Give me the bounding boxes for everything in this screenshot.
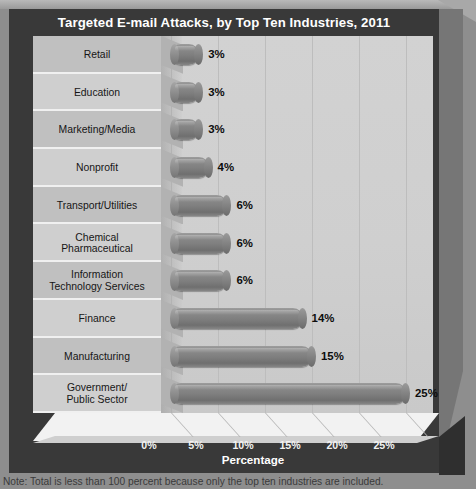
category-label-line2: Pharmaceutical xyxy=(61,243,133,254)
category-label-line1: Government/ xyxy=(67,382,127,393)
bar-value-label: 14% xyxy=(312,308,335,329)
bar-value-label: 15% xyxy=(321,346,344,367)
plot-area: RetailEducationMarketing/MediaNonprofitT… xyxy=(33,36,433,413)
bar xyxy=(171,270,227,291)
bar-highlight xyxy=(175,159,205,164)
bar xyxy=(171,346,312,367)
bar-highlight xyxy=(175,235,223,240)
bar-value-label: 3% xyxy=(208,44,224,65)
bar-highlight xyxy=(175,46,195,51)
bar-highlight xyxy=(175,348,308,353)
category-label-line1: Information xyxy=(71,269,123,280)
bar xyxy=(171,119,199,140)
category-label-line2: Technology Services xyxy=(49,281,144,292)
bar-value-label: 3% xyxy=(208,82,224,103)
bevel-top-highlight xyxy=(0,0,476,9)
bar xyxy=(171,383,406,404)
category-label: Finance xyxy=(79,313,116,325)
category-label-line2: Public Sector xyxy=(66,394,127,405)
x-tick-label: 20% xyxy=(317,438,357,452)
bar xyxy=(171,195,227,216)
category-label-line1: Marketing/Media xyxy=(59,124,136,135)
category-label: Nonprofit xyxy=(76,162,118,174)
bar-value-label: 6% xyxy=(236,270,252,291)
category-label: Marketing/Media xyxy=(59,124,136,136)
category-label: InformationTechnology Services xyxy=(49,269,144,292)
category-label: Manufacturing xyxy=(64,351,130,363)
category-label-line1: Chemical xyxy=(75,232,118,243)
bar-highlight xyxy=(175,84,195,89)
bar-value-label: 4% xyxy=(218,157,234,178)
bar-highlight xyxy=(175,310,299,315)
bar xyxy=(171,44,199,65)
category-label: Education xyxy=(74,87,120,99)
category-label: Government/Public Sector xyxy=(66,382,127,405)
x-tick-label: 10% xyxy=(223,438,263,452)
category-label-line1: Transport/Utilities xyxy=(57,200,137,211)
x-tick-label: 15% xyxy=(270,438,310,452)
bar xyxy=(171,233,227,254)
category-label: Transport/Utilities xyxy=(57,200,137,212)
chart-frame-side-face xyxy=(439,9,463,473)
category-label-line1: Finance xyxy=(79,313,116,324)
bar xyxy=(171,308,303,329)
category-label-line1: Retail xyxy=(84,49,111,60)
x-tick-label: 5% xyxy=(176,438,216,452)
bar-highlight xyxy=(175,272,223,277)
category-label-line1: Manufacturing xyxy=(64,351,130,362)
bar-value-label: 3% xyxy=(208,119,224,140)
bar-value-label: 25% xyxy=(415,383,438,404)
category-label: Retail xyxy=(84,49,111,61)
chart-title: Targeted E-mail Attacks, by Top Ten Indu… xyxy=(9,12,439,34)
x-axis-title: Percentage xyxy=(9,453,439,466)
x-tick-label: 0% xyxy=(129,438,169,452)
bar-highlight xyxy=(175,197,223,202)
category-label-line1: Nonprofit xyxy=(76,162,118,173)
bar-highlight xyxy=(175,385,402,390)
chart-outer-block: Targeted E-mail Attacks, by Top Ten Indu… xyxy=(0,0,476,489)
bar-value-label: 6% xyxy=(236,233,252,254)
category-label: ChemicalPharmaceutical xyxy=(61,232,133,255)
x-axis-tick-labels: 0%5%10%15%20%25% xyxy=(9,438,439,454)
chart-note: Note: Total is less than 100 percent bec… xyxy=(3,476,473,488)
bar xyxy=(171,157,209,178)
bar-highlight xyxy=(175,121,195,126)
category-label-line1: Education xyxy=(74,87,120,98)
bar-value-label: 6% xyxy=(236,195,252,216)
x-tick-label: 25% xyxy=(364,438,404,452)
bar xyxy=(171,82,199,103)
